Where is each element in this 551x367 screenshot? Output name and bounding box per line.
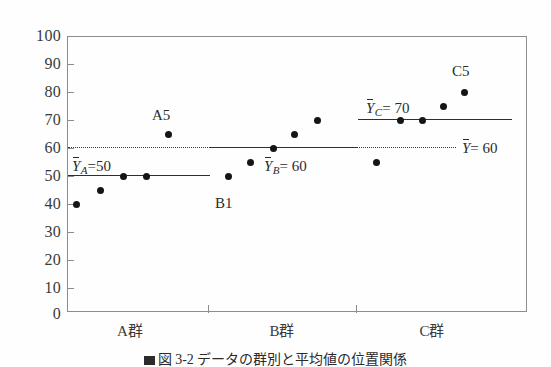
y-bar-subscript-a: A <box>80 164 87 176</box>
point-label-b1: B1 <box>215 196 233 211</box>
data-point <box>120 173 127 180</box>
data-point <box>291 131 298 138</box>
annotation-grand-mean: Y= 60 <box>462 140 498 156</box>
annotation-mean-b: YB= 60 <box>264 158 307 178</box>
y-tick-label-100: 100 <box>17 28 61 44</box>
y-bar-symbol-c: Y <box>366 100 374 116</box>
annotation-mean-a-value: =50 <box>88 158 111 174</box>
data-point-c5 <box>461 89 468 96</box>
y-bar-symbol-b: Y <box>264 158 272 174</box>
y-tick-label-0: 0 <box>17 306 61 322</box>
x-axis-separator-bc <box>356 305 357 313</box>
x-axis-separator-ab <box>208 305 209 313</box>
annotation-mean-b-value: = 60 <box>280 158 307 174</box>
data-point <box>440 103 447 110</box>
annotation-mean-c: YC= 70 <box>366 100 409 120</box>
caption-text: 図 3-2 データの群別と平均値の位置関係 <box>158 352 408 367</box>
y-tick-label-10: 10 <box>17 280 61 296</box>
annotation-mean-a: YA=50 <box>72 158 111 178</box>
figure-caption: 図 3-2 データの群別と平均値の位置関係 <box>0 352 551 367</box>
data-point <box>373 159 380 166</box>
grand-mean-line-segment-left <box>68 147 210 148</box>
y-tick-label-20: 20 <box>17 252 61 268</box>
point-label-c5: C5 <box>452 64 470 79</box>
y-tick-label-60: 60 <box>17 140 61 156</box>
y-tick-label-80: 80 <box>17 84 61 100</box>
data-point <box>270 145 277 152</box>
y-bar-subscript-b: B <box>272 164 279 176</box>
point-label-a5: A5 <box>152 108 170 123</box>
x-axis-label-group-a: A群 <box>90 324 170 339</box>
x-axis-label-group-c: C群 <box>392 324 472 339</box>
data-point <box>73 201 80 208</box>
figure-container: 100 90 80 70 60 50 40 30 20 10 0 <box>0 0 551 367</box>
data-point <box>247 159 254 166</box>
data-point <box>97 187 104 194</box>
x-axis-label-group-b: B群 <box>242 324 322 339</box>
y-tick-label-30: 30 <box>17 224 61 240</box>
y-bar-subscript-c: C <box>374 106 382 118</box>
group-mean-line-b <box>210 147 356 148</box>
y-tick-label-40: 40 <box>17 196 61 212</box>
data-point <box>143 173 150 180</box>
annotation-mean-c-value: = 70 <box>382 100 409 116</box>
y-bar-symbol-grand: Y <box>462 140 470 156</box>
data-point-b1 <box>225 173 232 180</box>
y-axis: 100 90 80 70 60 50 40 30 20 10 0 <box>9 0 61 367</box>
caption-marker-icon <box>144 356 155 365</box>
y-bar-symbol-a: Y <box>72 158 80 174</box>
annotation-grand-mean-value: = 60 <box>470 140 497 156</box>
y-tick-label-70: 70 <box>17 112 61 128</box>
data-point-a5 <box>165 131 172 138</box>
data-point <box>419 117 426 124</box>
data-point <box>314 117 321 124</box>
y-tick-label-90: 90 <box>17 56 61 72</box>
grand-mean-line-segment-right <box>356 147 456 148</box>
y-tick-label-50: 50 <box>17 168 61 184</box>
